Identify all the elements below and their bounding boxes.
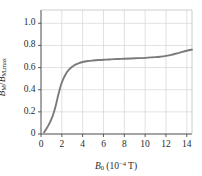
x-tick-label: 8 [122, 140, 127, 150]
y-axis-numerator-subscript: M [0, 85, 7, 91]
x-tick-label: 0 [39, 140, 44, 150]
plot-frame [41, 10, 192, 134]
y-tick-label: 0 [0, 129, 36, 139]
x-tick-label: 14 [182, 140, 192, 150]
x-tick-label: 2 [59, 140, 64, 150]
y-axis-slash: / [0, 82, 7, 85]
y-tick-label: 1.0 [0, 19, 36, 29]
x-axis-title: B0 (10−4 T) [95, 160, 137, 171]
x-axis-unit-exponent: −4 [119, 160, 126, 167]
y-axis-numerator-symbol: B [0, 91, 7, 97]
y-axis-denominator-subscript: M,max [0, 58, 7, 76]
magnetization-chart-figure: 02468101214 00.20.40.60.81.0 B0 (10−4 T)… [0, 0, 202, 176]
x-tick-label: 4 [80, 140, 85, 150]
gridlines-group [41, 10, 192, 134]
x-tick-label: 6 [101, 140, 106, 150]
x-tick-label: 10 [140, 140, 150, 150]
y-tick-label: 0.2 [0, 107, 36, 117]
axis-ticks [38, 23, 187, 137]
x-tick-label: 12 [161, 140, 171, 150]
y-axis-denominator-symbol: B [0, 76, 7, 82]
x-axis-unit-open: (10 [104, 161, 119, 171]
x-axis-unit-close: T) [126, 161, 137, 171]
y-tick-label: 0.8 [0, 41, 36, 51]
y-axis-title: BM/BM,max [0, 58, 7, 96]
data-curve-line [44, 50, 192, 133]
